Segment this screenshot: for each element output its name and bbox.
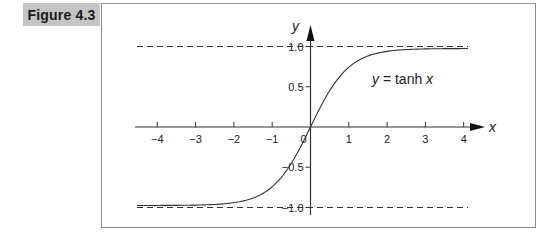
y-tick-label: −1.0 <box>282 202 304 214</box>
x-axis-ticks: −4−3−2−101234 <box>151 122 467 145</box>
x-tick-label: −3 <box>189 133 202 145</box>
x-tick-label: 1 <box>346 133 352 145</box>
x-tick-label: 2 <box>384 133 390 145</box>
y-axis-label: y <box>291 18 300 34</box>
axes <box>135 25 485 215</box>
y-axis-arrow-icon <box>307 25 315 41</box>
x-tick-label: −1 <box>266 133 279 145</box>
x-tick-label: 0 <box>300 133 306 145</box>
annotation-x: x <box>425 71 434 87</box>
x-tick-label: 4 <box>461 133 467 145</box>
y-tick-label: 1.0 <box>288 41 303 53</box>
x-tick-label: −4 <box>151 133 164 145</box>
tanh-plot: −4−3−2−101234 1.00.5−0.5−1.0 x y y = tan… <box>0 0 548 233</box>
y-tick-label: −0.5 <box>282 161 304 173</box>
x-axis-arrow-icon <box>470 123 485 131</box>
x-tick-label: −2 <box>228 133 241 145</box>
x-axis-label: x <box>488 119 497 135</box>
function-annotation: y = tanh x <box>371 71 434 87</box>
x-tick-label: 3 <box>422 133 428 145</box>
annotation-eq: = tanh <box>379 71 426 87</box>
y-tick-label: 0.5 <box>288 81 303 93</box>
